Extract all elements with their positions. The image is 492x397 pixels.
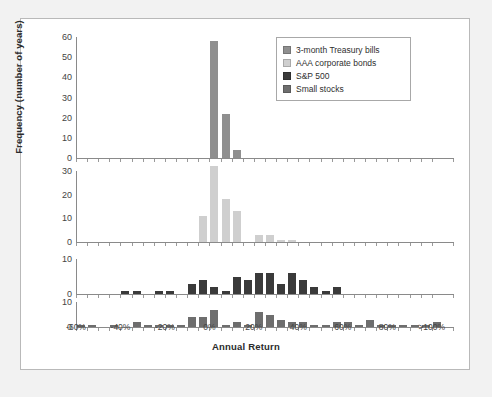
- bar: [188, 284, 196, 295]
- x-axis-tick: [132, 159, 133, 162]
- x-axis-tick: [165, 159, 166, 162]
- y-axis-tick-label: 40: [62, 72, 72, 82]
- x-axis-tick: [209, 295, 210, 298]
- bar: [210, 166, 218, 242]
- y-axis-tick-label: 10: [62, 297, 72, 307]
- x-axis-tick: [98, 295, 99, 298]
- chart-figure: Frequency (number of years) Annual Retur…: [0, 0, 492, 397]
- x-axis-tick: [243, 295, 244, 298]
- bar: [277, 284, 285, 295]
- x-axis-tick: [398, 243, 399, 246]
- x-axis-tick: [98, 159, 99, 162]
- plot-area: Frequency (number of years) Annual Retur…: [21, 19, 471, 371]
- x-axis-tick: [232, 159, 233, 162]
- x-axis-tick: [365, 295, 366, 298]
- x-axis-tick: [176, 295, 177, 298]
- x-axis-tick: [321, 159, 322, 162]
- x-axis-tick: [276, 295, 277, 298]
- x-axis-tick: [243, 243, 244, 246]
- x-axis-tick: [365, 243, 366, 246]
- x-axis-tick-label: -60%: [66, 322, 86, 332]
- bar: [210, 41, 218, 158]
- x-axis-tick: [109, 159, 110, 162]
- x-axis-tick: [321, 243, 322, 246]
- x-axis-tick: [410, 243, 411, 246]
- x-axis-tick: [209, 159, 210, 162]
- x-axis-tick: [453, 159, 454, 162]
- x-axis-tick: [187, 243, 188, 246]
- y-axis-line: [76, 37, 77, 159]
- legend-label: Small stocks: [296, 84, 344, 94]
- x-axis-tick: [120, 159, 121, 162]
- x-axis-tick: [76, 159, 77, 162]
- x-axis-tick: [87, 295, 88, 298]
- bar: [322, 291, 330, 295]
- x-axis-tick: [410, 295, 411, 298]
- x-axis-tick: [453, 295, 454, 298]
- x-axis-tick: [143, 159, 144, 162]
- x-axis-tick: [298, 159, 299, 162]
- bar: [266, 235, 274, 242]
- x-axis-tick: [365, 159, 366, 162]
- bar: [277, 240, 285, 242]
- bar: [255, 273, 263, 294]
- y-axis-tick-label: 20: [62, 190, 72, 200]
- bar: [255, 235, 263, 242]
- legend-label: AAA corporate bonds: [296, 58, 376, 68]
- x-axis-tick: [421, 243, 422, 246]
- x-axis-tick: [432, 243, 433, 246]
- panel-plot: 010: [76, 259, 454, 295]
- x-axis-tick: [398, 159, 399, 162]
- x-axis-tick: [387, 295, 388, 298]
- x-axis-tick: [287, 295, 288, 298]
- y-axis-tick-label: 0: [67, 237, 72, 247]
- x-axis-tick-label: 0%: [203, 322, 215, 332]
- y-axis-tick-label: 60: [62, 32, 72, 42]
- legend-item: 3-month Treasury bills: [283, 43, 404, 56]
- x-axis-tick: [154, 295, 155, 298]
- x-axis-tick: [232, 295, 233, 298]
- x-axis-tick: [343, 295, 344, 298]
- bar: [233, 211, 241, 242]
- x-axis-tick: [332, 243, 333, 246]
- x-axis-tick: [87, 159, 88, 162]
- x-axis-tick: [376, 295, 377, 298]
- bar: [333, 287, 341, 294]
- x-axis-title: Annual Return: [21, 341, 471, 352]
- x-axis-tick: [165, 295, 166, 298]
- x-axis-tick: [120, 243, 121, 246]
- x-axis-tick: [287, 159, 288, 162]
- chart-panel-3: 010: [76, 259, 454, 295]
- x-axis-tick: [332, 159, 333, 162]
- x-axis-tick: [343, 159, 344, 162]
- bar: [233, 150, 241, 158]
- x-axis-tick: [109, 243, 110, 246]
- chart-panel-2: 0102030: [76, 171, 454, 243]
- legend-swatch-corporate-bonds: [283, 59, 291, 67]
- x-axis-tick: [376, 159, 377, 162]
- x-axis-tick: [109, 295, 110, 298]
- bar: [288, 273, 296, 294]
- x-axis-tick: [221, 243, 222, 246]
- x-axis-tick: [132, 295, 133, 298]
- x-axis-tick: [354, 295, 355, 298]
- legend-swatch-sp500: [283, 72, 291, 80]
- x-axis-tick: [276, 159, 277, 162]
- x-axis-tick: [354, 243, 355, 246]
- legend-item: AAA corporate bonds: [283, 56, 404, 69]
- x-axis-tick: [76, 243, 77, 246]
- chart-frame: Frequency (number of years) Annual Retur…: [20, 18, 470, 370]
- legend-label: S&P 500: [296, 71, 329, 81]
- y-axis-tick-label: 10: [62, 254, 72, 264]
- x-axis-tick: [432, 295, 433, 298]
- x-axis-tick: [387, 243, 388, 246]
- bar: [299, 280, 307, 294]
- x-axis-tick: [187, 295, 188, 298]
- x-axis-tick: [120, 295, 121, 298]
- x-axis-tick: [387, 159, 388, 162]
- x-axis-tick: [154, 243, 155, 246]
- x-axis-tick: [209, 243, 210, 246]
- bar: [199, 280, 207, 294]
- x-axis-tick: [143, 295, 144, 298]
- x-axis-tick: [176, 159, 177, 162]
